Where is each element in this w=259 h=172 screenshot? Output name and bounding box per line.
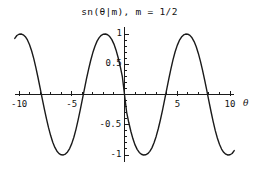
y-tick-label: 1 [117,28,122,38]
x-tick-label: -10 [11,99,27,109]
x-tick-label: 5 [175,99,180,109]
y-tick-label: 0.5 [106,58,122,68]
y-tick-label: -0.5 [100,119,122,129]
x-tick-label: -5 [66,99,77,109]
chart-figure: sn(θ|m), m = 1/2 -10-5510-1-0.50.51 θ [0,0,259,172]
y-tick-label: -1 [111,149,122,159]
x-tick-label: 10 [225,99,236,109]
plot-area [0,0,259,172]
x-axis-label: θ [243,98,248,108]
